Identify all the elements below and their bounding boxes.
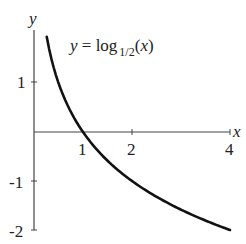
y-axis-label: y: [27, 9, 37, 28]
log-curve: [47, 37, 230, 230]
x-axis: [34, 129, 230, 135]
x-axis-label: x: [232, 122, 241, 141]
chart: y x 1 -1 -2 1 2 4 y = log1/2(x): [0, 0, 246, 244]
y-axis: [31, 30, 37, 230]
y-tick-label: -1: [9, 173, 23, 192]
y-tick-label: -2: [9, 222, 23, 241]
x-tick-label: 4: [225, 140, 234, 159]
y-tick-label: 1: [17, 73, 26, 92]
svg-text:y = log1/2(x): y = log1/2(x): [68, 36, 154, 59]
x-tick-label: 1: [78, 140, 87, 159]
chart-title: y = log1/2(x): [68, 36, 154, 59]
title-subscript: 1/2: [119, 45, 134, 59]
x-tick-label: 2: [127, 140, 136, 159]
